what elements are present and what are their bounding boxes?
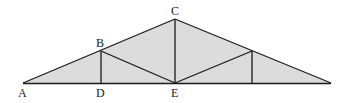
label-E: E <box>171 86 178 100</box>
label-D: D <box>96 86 105 100</box>
truss-diagram: A B C D E <box>0 0 345 103</box>
label-B: B <box>96 36 104 50</box>
label-C: C <box>171 4 179 18</box>
truss-fill <box>23 19 331 83</box>
label-A: A <box>18 86 27 100</box>
